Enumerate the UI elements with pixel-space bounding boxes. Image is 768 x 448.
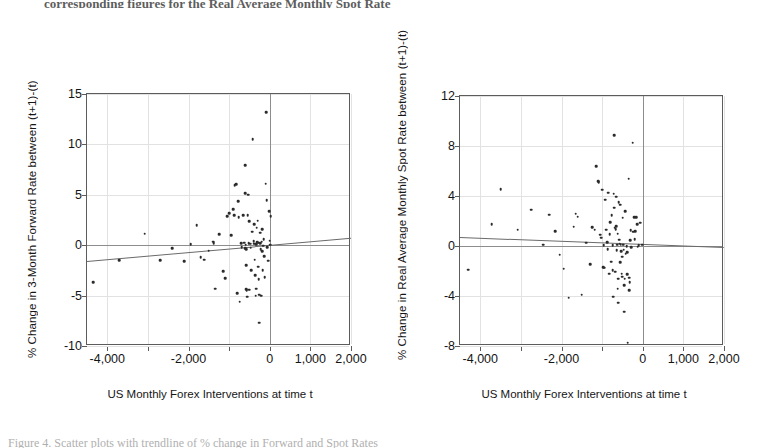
y-gridline <box>87 296 349 297</box>
y-tick-label: 0 <box>448 240 455 253</box>
x-gridline <box>107 94 108 344</box>
scatter-point <box>641 243 644 246</box>
y-tick-label: 15 <box>68 88 82 101</box>
scatter-point <box>594 228 597 231</box>
scatter-point <box>266 246 269 249</box>
y-tick-label: -5 <box>71 289 82 302</box>
scatter-point <box>245 264 248 267</box>
scatter-point <box>615 249 618 252</box>
scatter-point <box>611 214 614 217</box>
scatter-point <box>269 243 272 246</box>
y-tick-label: 12 <box>441 90 455 103</box>
y-tick-mark <box>455 346 460 347</box>
scatter-point <box>626 273 629 276</box>
x-axis-title-spot: US Monthly Forex Interventions at time t <box>434 388 734 400</box>
x-tick-label: -2,000 <box>171 353 206 366</box>
scatter-point <box>195 224 198 227</box>
x-axis-title-forward: US Monthly Forex Interventions at time t <box>60 388 360 400</box>
scatter-point <box>232 208 235 211</box>
scatter-point <box>268 210 271 213</box>
scatter-point <box>624 210 627 213</box>
x-zero-axis <box>643 96 644 344</box>
x-gridline <box>189 94 190 344</box>
scatter-point <box>247 214 250 217</box>
scatter-point <box>242 214 245 217</box>
scatter-point <box>203 259 206 262</box>
scatter-point <box>258 278 261 281</box>
scatter-point <box>604 198 607 201</box>
scatter-point <box>630 246 633 249</box>
scatter-point <box>267 260 270 263</box>
y-gridline <box>87 144 349 145</box>
y-gridline <box>460 346 722 347</box>
plot-area-spot: -4,000-2,00001,0002,000-8-404812 <box>459 95 723 345</box>
scatter-point <box>612 192 615 195</box>
x-tick-label: 1,000 <box>295 353 326 366</box>
scatter-point <box>263 255 266 258</box>
chart-panel-forward-rate: % Change in 3-Month Forward Rate between… <box>0 0 384 446</box>
scatter-point <box>265 199 268 202</box>
scatter-point <box>607 192 610 195</box>
x-tick-label: 1,000 <box>668 353 699 366</box>
scatter-point <box>623 310 626 313</box>
scatter-point <box>639 222 642 225</box>
scatter-point <box>269 215 272 218</box>
scatter-point <box>576 215 579 218</box>
scatter-point <box>240 246 243 249</box>
scatter-point <box>255 226 258 229</box>
scatter-point <box>238 300 241 303</box>
y-tick-label: 4 <box>448 190 455 203</box>
y-zero-axis <box>87 245 349 246</box>
chart-panel-spot-rate: % Change in Real Average Monthly Spot Ra… <box>384 0 768 446</box>
scatter-point <box>214 287 217 290</box>
scatter-point <box>171 247 174 250</box>
y-tick-label: 5 <box>75 189 82 202</box>
scatter-point <box>256 219 259 222</box>
scatter-point <box>233 214 236 217</box>
x-zero-axis <box>270 94 271 344</box>
y-tick-mark <box>82 195 87 196</box>
scatter-point <box>218 233 221 236</box>
scatter-point <box>628 281 631 284</box>
scatter-point <box>635 216 638 219</box>
scatter-point <box>183 260 186 263</box>
y-gridline <box>460 146 722 147</box>
scatter-point <box>622 248 625 251</box>
scatter-point <box>237 200 240 203</box>
x-tick-mark <box>724 346 725 351</box>
scatter-point <box>246 295 249 298</box>
scatter-point <box>251 138 254 141</box>
y-gridline <box>87 195 349 196</box>
scatter-point <box>626 251 629 254</box>
scatter-point <box>254 274 257 277</box>
y-tick-label: 10 <box>68 138 82 151</box>
x-tick-label: -4,000 <box>463 353 498 366</box>
cropped-caption-text: Figure 4. Scatter plots with trendline o… <box>8 436 760 448</box>
scatter-point <box>610 260 613 263</box>
scatter-point <box>618 238 621 241</box>
x-gridline <box>602 96 603 344</box>
scatter-point <box>516 228 519 231</box>
x-gridline <box>480 96 481 344</box>
scatter-point <box>261 250 264 253</box>
y-gridline <box>460 296 722 297</box>
scatter-point <box>626 342 629 345</box>
scatter-point <box>585 242 588 245</box>
scatter-point <box>224 277 227 280</box>
x-tick-label: 0 <box>266 353 273 366</box>
y-gridline <box>87 94 349 95</box>
scatter-point <box>490 223 493 226</box>
scatter-point <box>548 213 551 216</box>
scatter-point <box>236 292 239 295</box>
scatter-point <box>248 220 251 223</box>
scatter-point <box>244 192 247 195</box>
y-tick-mark <box>455 146 460 147</box>
scatter-point <box>249 242 252 245</box>
scatter-point <box>619 203 622 206</box>
scatter-point <box>602 244 605 247</box>
scatter-point <box>617 277 620 280</box>
scatter-point <box>254 294 257 297</box>
scatter-point <box>624 277 627 280</box>
scatter-point <box>208 249 211 252</box>
